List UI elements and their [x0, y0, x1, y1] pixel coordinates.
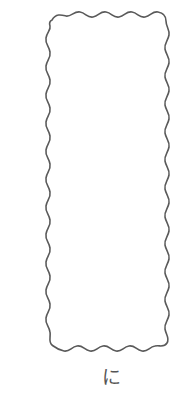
wavy-border	[46, 12, 169, 351]
caption-character: に	[96, 364, 126, 390]
wavy-rectangle-outline	[0, 0, 174, 399]
